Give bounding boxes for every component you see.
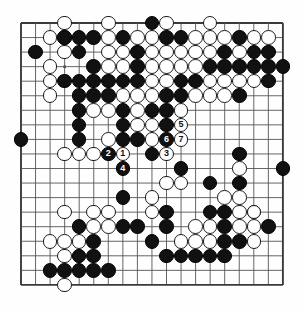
white-stone (145, 45, 160, 60)
white-stone (188, 234, 203, 249)
black-stone (101, 74, 116, 89)
go-stone-layer: 1234567 (0, 0, 303, 311)
black-stone (116, 190, 131, 205)
white-stone (72, 147, 87, 162)
numbered-stone-6: 6 (159, 132, 174, 147)
white-stone (101, 205, 116, 220)
black-stone (116, 118, 131, 133)
white-stone (247, 219, 262, 234)
black-stone (72, 103, 87, 118)
white-stone (174, 45, 189, 60)
black-stone (217, 59, 232, 74)
white-stone (145, 190, 160, 205)
black-stone (130, 132, 145, 147)
black-stone (261, 219, 276, 234)
black-stone (232, 234, 247, 249)
black-stone (116, 219, 131, 234)
white-stone (101, 219, 116, 234)
white-stone (130, 118, 145, 133)
black-stone (72, 132, 87, 147)
white-stone (159, 74, 174, 89)
white-stone (145, 74, 160, 89)
white-stone (57, 205, 72, 220)
black-stone (174, 30, 189, 45)
white-stone (174, 234, 189, 249)
white-stone (101, 132, 116, 147)
white-stone (188, 59, 203, 74)
numbered-stone-4: 4 (116, 161, 131, 176)
white-stone (57, 249, 72, 264)
white-stone (130, 30, 145, 45)
black-stone (188, 249, 203, 264)
white-stone (217, 74, 232, 89)
white-stone (130, 88, 145, 103)
black-stone (72, 45, 87, 60)
black-stone (14, 132, 29, 147)
black-stone (276, 59, 291, 74)
stone-number: 5 (175, 119, 188, 132)
white-stone (43, 74, 58, 89)
black-stone (130, 219, 145, 234)
black-stone (247, 45, 262, 60)
go-diagram: 1234567 (0, 0, 303, 311)
black-stone (174, 74, 189, 89)
numbered-stone-3: 3 (159, 147, 174, 162)
black-stone (159, 30, 174, 45)
white-stone (174, 59, 189, 74)
white-stone (232, 219, 247, 234)
black-stone (130, 45, 145, 60)
stone-number: 7 (175, 133, 188, 146)
white-stone (247, 234, 262, 249)
white-stone (188, 88, 203, 103)
black-stone (86, 30, 101, 45)
white-stone (203, 45, 218, 60)
black-stone (232, 30, 247, 45)
black-stone (261, 74, 276, 89)
white-stone (232, 205, 247, 220)
black-stone (145, 103, 160, 118)
black-stone (116, 103, 131, 118)
black-stone (116, 30, 131, 45)
white-stone (116, 59, 131, 74)
black-stone (159, 219, 174, 234)
stone-number: 1 (117, 148, 130, 161)
black-stone (86, 74, 101, 89)
black-stone (203, 176, 218, 191)
white-stone (145, 205, 160, 220)
white-stone (86, 205, 101, 220)
white-stone (101, 59, 116, 74)
white-stone (232, 161, 247, 176)
white-stone (57, 16, 72, 31)
black-stone (72, 88, 87, 103)
black-stone (217, 45, 232, 60)
white-stone (232, 45, 247, 60)
white-stone (43, 30, 58, 45)
black-stone (72, 118, 87, 133)
black-stone (203, 205, 218, 220)
white-stone (247, 30, 262, 45)
white-stone (86, 219, 101, 234)
black-stone (232, 147, 247, 162)
white-stone (57, 45, 72, 60)
black-stone (217, 249, 232, 264)
black-stone (145, 234, 160, 249)
black-stone (28, 45, 43, 60)
white-stone (247, 205, 262, 220)
stone-number: 3 (160, 148, 173, 161)
white-stone (174, 103, 189, 118)
white-stone (145, 59, 160, 74)
black-stone (72, 219, 87, 234)
white-stone (261, 30, 276, 45)
white-stone (72, 234, 87, 249)
white-stone (145, 132, 160, 147)
white-stone (57, 147, 72, 162)
white-stone (217, 190, 232, 205)
black-stone (86, 234, 101, 249)
black-stone (72, 30, 87, 45)
black-stone (159, 118, 174, 133)
black-stone (276, 161, 291, 176)
white-stone (57, 278, 72, 293)
white-stone (86, 103, 101, 118)
black-stone (130, 74, 145, 89)
white-stone (101, 16, 116, 31)
